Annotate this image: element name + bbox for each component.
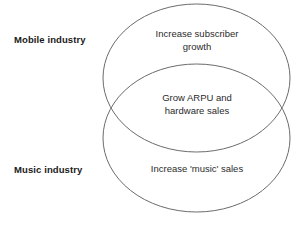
set-label-mobile-industry: Mobile industry	[14, 34, 86, 45]
venn-diagram-canvas: Mobile industry Music industry Increase …	[0, 0, 299, 229]
region-text-line: hardware sales	[117, 105, 277, 118]
set-label-music-industry: Music industry	[14, 164, 82, 175]
region-text-line: Increase subscriber	[117, 28, 277, 41]
region-text-line: Grow ARPU and	[117, 92, 277, 105]
region-text-mobile-exclusive: Increase subscriber growth	[117, 28, 277, 53]
ellipse-music-industry	[103, 64, 290, 212]
region-text-music-exclusive: Increase 'music' sales	[117, 163, 277, 176]
region-text-line: growth	[117, 41, 277, 54]
region-text-intersection: Grow ARPU and hardware sales	[117, 92, 277, 117]
region-text-line: Increase 'music' sales	[117, 163, 277, 176]
ellipse-mobile-industry	[103, 4, 290, 152]
